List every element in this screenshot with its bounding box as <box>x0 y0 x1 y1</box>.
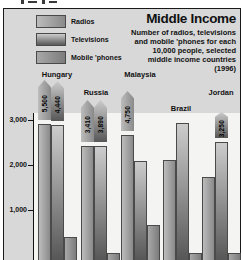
chart-subtitle-line: and mobile 'phones for each <box>131 37 236 46</box>
bar-brazil-2 <box>189 253 202 260</box>
bar-value-label: 5,500 <box>41 95 48 112</box>
bar-hungary-0-arrow: 5,500 <box>38 80 51 120</box>
bar-jordan-2 <box>228 253 241 260</box>
bar-malaysia-0 <box>121 135 134 260</box>
bar-jordan-1 <box>215 142 228 260</box>
tick-mark <box>28 120 33 121</box>
country-label-russia: Russia <box>84 88 109 97</box>
bar-value-label: 4,440 <box>54 96 61 113</box>
bar-value-label: 3,250 <box>218 120 225 137</box>
bar-jordan-0 <box>202 177 215 260</box>
tick-mark <box>28 210 33 211</box>
bar-russia-1 <box>94 146 107 260</box>
chart-subtitle-line: middle income countries <box>131 55 236 64</box>
bar-value-label: 3,410 <box>84 116 91 133</box>
legend-label-televisions: Televisions <box>71 33 109 46</box>
bar-value-label: 3,890 <box>97 116 104 133</box>
tick-label: 2,000 <box>4 161 27 168</box>
cropped-caption-fragment <box>0 0 244 8</box>
bar-brazil-1 <box>176 123 189 260</box>
bar-malaysia-1 <box>134 161 147 260</box>
bar-malaysia-2 <box>147 225 160 260</box>
bar-russia-0-arrow: 3,410 <box>81 100 94 142</box>
tick-mark <box>28 165 33 166</box>
country-label-malaysia: Malaysia <box>124 70 155 79</box>
chart-subtitle-line: 10,000 people, selected <box>131 46 236 55</box>
bar-russia-2 <box>107 253 120 260</box>
legend-swatch-mobile-phones <box>36 51 66 64</box>
bar-value-label: 4,750 <box>124 106 131 123</box>
bar-brazil-0 <box>163 160 176 260</box>
bar-malaysia-0-arrow: 4,750 <box>121 91 134 131</box>
chart-subtitle-line: Number of radios, televisions <box>131 28 236 37</box>
legend-swatch-televisions <box>36 33 66 46</box>
bar-hungary-1-arrow: 4,440 <box>51 81 64 121</box>
legend-label-radios: Radios <box>71 15 94 28</box>
country-label-hungary: Hungary <box>42 70 72 79</box>
legend-swatch-radios <box>36 15 66 28</box>
bar-hungary-1 <box>51 125 64 260</box>
bar-jordan-1-arrow: 3,250 <box>215 112 228 138</box>
bar-hungary-0 <box>38 124 51 260</box>
chart-title: Middle Income <box>146 11 236 26</box>
figure: Radios Televisions Mobile 'phones Middle… <box>0 0 244 260</box>
tick-label: 3,000 <box>4 116 27 123</box>
country-label-brazil: Brazil <box>171 104 191 113</box>
bar-russia-1-arrow: 3,890 <box>94 100 107 142</box>
legend-label-mobile-phones: Mobile 'phones <box>71 51 122 64</box>
bar-russia-0 <box>81 146 94 260</box>
bar-hungary-2 <box>64 237 77 260</box>
chart-subtitle: Number of radios, televisions and mobile… <box>131 28 236 73</box>
country-label-jordan: Jordan <box>208 88 233 97</box>
tick-label: 1,000 <box>4 206 27 213</box>
